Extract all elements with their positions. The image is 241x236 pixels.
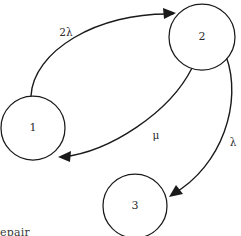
state-node-1[interactable]: 1 [1,96,65,160]
state-node-3[interactable]: 3 [103,174,167,236]
state-node-2-label: 2 [199,30,206,43]
state-node-3-label: 3 [132,199,139,212]
state-node-2[interactable]: 2 [169,4,235,70]
edge-2-to-1-path [62,68,192,157]
edge-2-to-1-arrowhead-icon [58,151,71,162]
edge-1-to-2-label: 2λ [59,26,73,38]
edge-1-to-2-path [31,14,173,96]
edge-2-to-3: λ [169,56,237,197]
state-diagram-figure: 2λ μ λ 1 2 3 epair [0,0,241,236]
edge-2-to-3-path [173,56,232,194]
edge-1-to-2-arrowhead-icon [163,8,176,19]
state-node-1-label: 1 [30,121,37,134]
edge-2-to-1-label: μ [153,129,160,141]
edge-2-to-3-label: λ [230,136,237,148]
edge-2-to-1: μ [58,68,192,162]
state-transition-diagram-canvas: 2λ μ λ 1 2 3 [0,0,241,236]
edge-2-to-3-arrowhead-icon [169,185,183,197]
caption-fragment: epair [0,226,30,236]
edge-1-to-2: 2λ [31,8,176,96]
